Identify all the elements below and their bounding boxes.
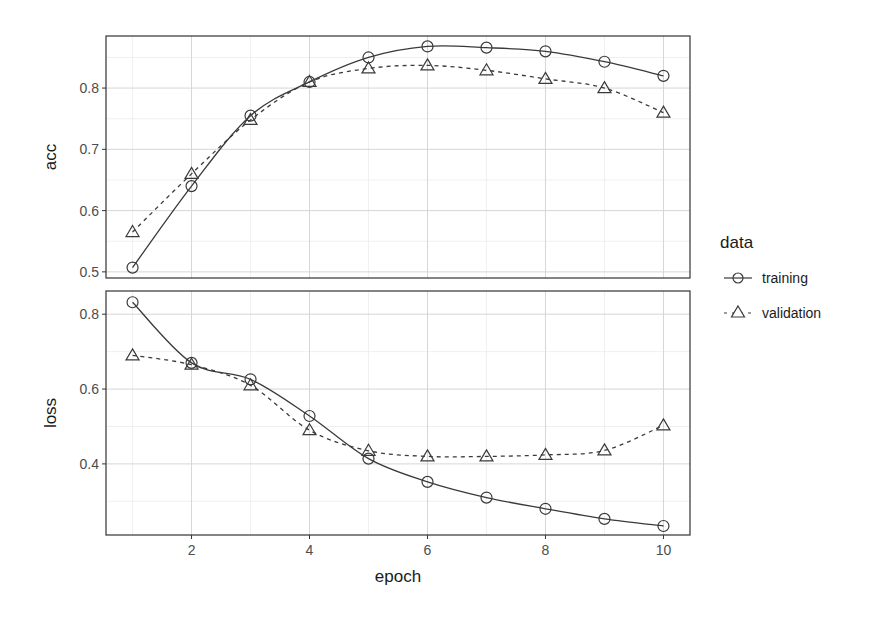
x-tick-label: 6 [424,542,432,558]
y-tick-label: 0.6 [80,203,100,219]
panel-background [106,291,690,535]
y-axis-title-acc: acc [41,143,60,170]
y-tick-label: 0.6 [80,381,100,397]
facet-panels: 0.50.60.70.8acc0.40.60.8loss [41,36,690,535]
x-tick-label: 10 [656,542,672,558]
y-tick-label: 0.7 [80,141,100,157]
training-history-chart: 0.50.60.70.8acc0.40.60.8loss 246810 epoc… [0,0,869,621]
legend-label-training: training [762,270,808,286]
y-tick-label: 0.5 [80,264,100,280]
legend: data training validation [720,233,821,321]
y-tick-label: 0.8 [80,306,100,322]
x-tick-label: 2 [188,542,196,558]
legend-label-validation: validation [762,305,821,321]
y-tick-label: 0.8 [80,80,100,96]
x-axis: 246810 [188,535,672,558]
x-tick-label: 4 [306,542,314,558]
panel-loss: 0.40.60.8loss [41,291,690,535]
legend-validation-triangle-icon [732,306,745,317]
y-axis-title-loss: loss [41,398,60,428]
legend-item-training: training [724,270,808,286]
x-axis-title: epoch [375,567,421,586]
y-tick-label: 0.4 [80,456,100,472]
panel-background [106,36,690,278]
panel-acc: 0.50.60.70.8acc [41,36,690,280]
x-tick-label: 8 [542,542,550,558]
legend-item-validation: validation [724,305,821,321]
legend-title: data [720,233,754,252]
